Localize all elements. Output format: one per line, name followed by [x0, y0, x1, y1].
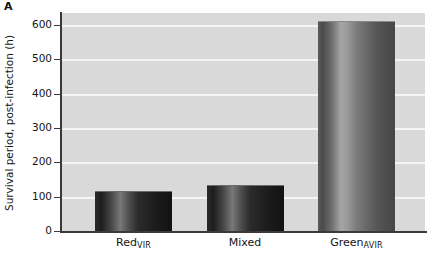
panel-label: A — [4, 1, 13, 13]
x-tick-label-subscript: AVIR — [364, 241, 383, 250]
x-tick-label: Mixed — [185, 236, 305, 249]
figure-panel-a: A Survival period, post-infection (h) 01… — [0, 0, 436, 256]
y-tick-label-box: 600 — [14, 19, 52, 30]
y-tick-mark — [54, 231, 61, 232]
bar-red — [95, 191, 172, 231]
y-tick-mark — [54, 128, 61, 129]
x-tick-label: GreenAVIR — [297, 236, 417, 250]
y-tick-label: 0 — [18, 225, 52, 236]
y-tick-mark — [54, 59, 61, 60]
y-tick-mark — [54, 25, 61, 26]
x-tick-label-text: Red — [116, 236, 137, 249]
y-tick-mark — [54, 197, 61, 198]
y-tick-mark — [54, 162, 61, 163]
y-tick-label: 300 — [18, 122, 52, 133]
y-tick-label-box: 100 — [14, 191, 52, 202]
y-tick-label-box: 500 — [14, 53, 52, 64]
y-tick-label-box: 0 — [14, 225, 52, 236]
y-tick-label-box: 200 — [14, 156, 52, 167]
y-tick-label: 100 — [18, 191, 52, 202]
y-tick-mark — [54, 94, 61, 95]
y-tick-label: 400 — [18, 88, 52, 99]
x-tick-label-subscript: VIR — [137, 241, 151, 250]
y-tick-label: 600 — [18, 19, 52, 30]
y-tick-label: 500 — [18, 53, 52, 64]
y-tick-label-box: 400 — [14, 88, 52, 99]
y-tick-label: 200 — [18, 156, 52, 167]
x-tick-label: RedVIR — [74, 236, 194, 250]
x-tick-label-text: Green — [330, 236, 363, 249]
x-axis-line — [60, 231, 427, 233]
bar-green — [318, 21, 395, 231]
bar-mixed — [207, 185, 284, 231]
y-tick-label-box: 300 — [14, 122, 52, 133]
y-axis-line — [60, 12, 62, 233]
x-tick-label-text: Mixed — [229, 236, 261, 249]
